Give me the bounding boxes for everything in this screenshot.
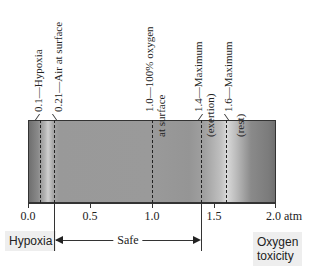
label-100-oxygen: 1.0—100% oxygen <box>143 26 155 112</box>
safe-bracket-right <box>201 203 202 251</box>
arrow-left-icon <box>55 236 63 244</box>
label-max-exertion: 1.4—Maximum <box>192 41 204 112</box>
label-hypoxia-marker: 0.1—Hypoxia <box>32 49 44 112</box>
tick-2-0 <box>275 203 276 208</box>
tick-1-5 <box>214 203 215 208</box>
region-hypoxia-label: Hypoxia <box>5 231 56 251</box>
tick-0-0 <box>28 203 29 208</box>
toxicity-line1: Oxygen <box>257 235 298 249</box>
arrow-right-icon <box>193 236 201 244</box>
marker-line-1-6 <box>226 120 227 203</box>
label-100-oxygen-line2: at surface <box>155 95 167 137</box>
tick-label-1-0: 1.0 <box>145 209 160 224</box>
marker-line-0-21 <box>54 120 55 203</box>
label-air-at-surface: 0.21—Air at surface <box>52 22 64 112</box>
tick-label-1-5: 1.5 <box>207 209 222 224</box>
marker-line-1-0 <box>152 120 153 203</box>
tick-label-0-0: 0.0 <box>21 209 36 224</box>
region-safe-label: Safe <box>113 233 142 248</box>
label-max-rest-line2: (rest) <box>234 114 246 137</box>
marker-line-1-4 <box>201 120 202 203</box>
tick-1-0 <box>152 203 153 208</box>
toxicity-line2: toxicity <box>257 249 298 263</box>
tick-label-0-5: 0.5 <box>83 209 98 224</box>
region-oxygen-toxicity-label: Oxygen toxicity <box>253 232 302 266</box>
marker-line-0-1 <box>40 120 41 203</box>
label-max-exertion-line2: (exertion) <box>204 94 216 137</box>
label-max-rest: 1.6—Maximum <box>222 41 234 112</box>
tick-0-5 <box>90 203 91 208</box>
tick-label-2-0: 2.0 atm <box>266 209 302 224</box>
